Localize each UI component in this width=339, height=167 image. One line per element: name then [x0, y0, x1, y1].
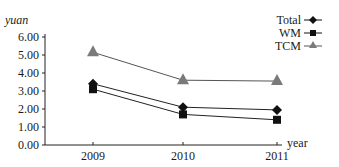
chart-canvas: yuan 0.001.002.003.004.005.006.00 200920…: [0, 0, 339, 167]
series-total: [88, 79, 282, 115]
series-tcm: [87, 45, 283, 85]
y-tick-label: 6.00: [18, 30, 39, 44]
diamond-marker-icon: [272, 105, 282, 115]
triangle-marker-icon: [271, 74, 283, 85]
square-marker-icon: [89, 85, 97, 93]
legend: Total WM TCM: [275, 13, 322, 53]
x-axis-title: year: [287, 136, 308, 150]
legend-item-wm: WM: [279, 26, 322, 40]
x-tick-label: 2011: [265, 149, 289, 163]
series-layer: [87, 45, 283, 124]
y-tick-label: 0.00: [18, 138, 39, 152]
legend-item-total: Total: [277, 13, 323, 27]
x-tick-label: 2009: [81, 149, 105, 163]
triangle-marker-icon: [309, 41, 317, 48]
square-marker-icon: [273, 116, 281, 124]
legend-label: TCM: [275, 39, 301, 53]
square-marker-icon: [310, 30, 316, 36]
diamond-marker-icon: [309, 16, 317, 24]
x-tick-label: 2010: [171, 149, 195, 163]
y-tick-label: 5.00: [18, 48, 39, 62]
y-tick-label: 4.00: [18, 66, 39, 80]
line-chart: yuan 0.001.002.003.004.005.006.00 200920…: [0, 0, 339, 167]
triangle-marker-icon: [87, 45, 99, 56]
legend-label: Total: [277, 13, 302, 27]
y-tick-label: 3.00: [18, 84, 39, 98]
y-axis-ticks: 0.001.002.003.004.005.006.00: [18, 30, 45, 152]
legend-item-tcm: TCM: [275, 39, 322, 53]
square-marker-icon: [179, 110, 187, 118]
legend-label: WM: [279, 26, 301, 40]
series-line: [93, 52, 277, 81]
y-axis-title: yuan: [4, 13, 28, 27]
y-tick-label: 1.00: [18, 120, 39, 134]
y-tick-label: 2.00: [18, 102, 39, 116]
